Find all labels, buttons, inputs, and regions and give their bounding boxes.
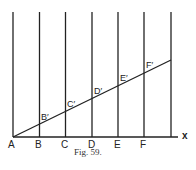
label-c-prime: C′ [67,100,75,109]
label-b-prime: B′ [41,113,49,122]
geometry-diagram [0,0,196,170]
label-f-prime: F′ [146,61,153,70]
label-c: C [61,140,68,150]
figure-caption: Fig. 59. [74,147,102,157]
label-d-prime: D′ [94,87,102,96]
label-b: B [35,140,42,150]
label-f: F [140,140,146,150]
label-e-prime: E′ [120,74,128,83]
label-e: E [114,140,121,150]
label-x-axis: x [182,131,188,141]
label-a: A [8,140,15,150]
